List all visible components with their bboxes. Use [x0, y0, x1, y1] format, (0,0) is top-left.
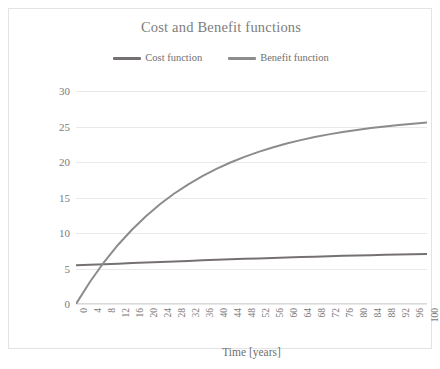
x-tick-label: 16 [136, 308, 146, 318]
x-tick-label: 92 [402, 308, 412, 318]
x-tick-label: 84 [374, 308, 384, 318]
y-tick-label: 10 [59, 227, 70, 239]
chart-legend: Cost function Benefit function [9, 53, 433, 64]
x-tick-label: 72 [332, 308, 342, 318]
plot-wrap: Costs and benefits actualized and cumula… [76, 91, 427, 304]
chart-title: Cost and Benefit functions [9, 19, 433, 36]
x-tick-label: 48 [248, 308, 258, 318]
x-axis-label: Time [years] [76, 346, 427, 358]
y-tick-label: 20 [59, 156, 70, 168]
y-tick-label: 30 [59, 85, 70, 97]
x-tick-label: 36 [206, 308, 216, 318]
y-tick-label: 0 [65, 298, 71, 310]
gridline [76, 304, 427, 305]
line-swatch-icon [113, 57, 141, 60]
x-tick-label: 88 [388, 308, 398, 318]
x-tick-label: 28 [178, 308, 188, 318]
x-tick-label: 32 [192, 308, 202, 318]
x-tick-label: 40 [220, 308, 230, 318]
x-tick-label: 64 [304, 308, 314, 318]
x-tick-label: 0 [80, 308, 90, 313]
y-tick-label: 25 [59, 121, 70, 133]
legend-label-cost-function: Cost function [145, 53, 202, 64]
x-tick-label: 24 [164, 308, 174, 318]
x-tick-label: 80 [360, 308, 370, 318]
x-tick-label: 100 [431, 308, 440, 322]
x-tick-label: 4 [94, 308, 104, 313]
x-tick-label: 52 [262, 308, 272, 318]
y-tick-label: 15 [59, 192, 70, 204]
chart-frame: Cost and Benefit functions Cost function… [8, 8, 432, 349]
legend-item-benefit-function[interactable]: Benefit function [228, 53, 329, 64]
plot-area [76, 91, 427, 304]
legend-label-benefit-function: Benefit function [260, 53, 329, 64]
x-tick-label: 12 [122, 308, 132, 318]
x-tick-label: 96 [416, 308, 426, 318]
x-tick-label: 8 [108, 308, 118, 313]
x-tick-label: 76 [346, 308, 356, 318]
legend-item-cost-function[interactable]: Cost function [113, 53, 202, 64]
series-line-cost-function [76, 254, 427, 265]
x-tick-label: 44 [234, 308, 244, 318]
x-tick-label: 68 [318, 308, 328, 318]
y-tick-label: 5 [65, 263, 71, 275]
series-line-benefit-function [76, 123, 427, 304]
x-tick-label: 20 [150, 308, 160, 318]
x-tick-label: 60 [290, 308, 300, 318]
x-tick-label: 56 [276, 308, 286, 318]
series-svg [76, 91, 427, 304]
line-swatch-icon [228, 57, 256, 60]
